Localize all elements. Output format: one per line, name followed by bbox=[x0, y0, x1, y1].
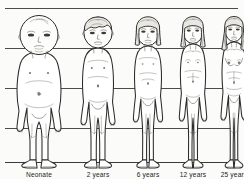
figure-age-2: 2 years bbox=[72, 16, 124, 162]
label-age-12: 12 years bbox=[170, 171, 216, 178]
figure-neonate: Neonate bbox=[8, 16, 70, 162]
label-age-6: 6 years bbox=[124, 171, 172, 178]
gridline-1 bbox=[5, 8, 238, 9]
label-age-2: 2 years bbox=[72, 171, 124, 178]
figure-age-12: 12 years bbox=[170, 16, 216, 162]
figure-age-25: 25 years bbox=[212, 16, 244, 162]
label-age-25: 25 years bbox=[212, 171, 244, 178]
body-proportion-figure: Neonate bbox=[0, 0, 244, 179]
figure-age-6: 6 years bbox=[124, 16, 172, 162]
label-neonate: Neonate bbox=[8, 171, 70, 178]
baseline bbox=[5, 162, 238, 163]
